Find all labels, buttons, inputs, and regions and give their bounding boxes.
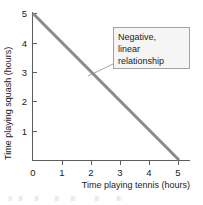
callout-line-1: Negative, <box>118 32 156 42</box>
y-tick-label-4: 4 <box>22 38 27 49</box>
scatter-line-chart: 5 4 3 2 1 0 1 2 3 4 5 Negative, linear r… <box>0 0 203 205</box>
y-tick-label-2: 2 <box>22 96 27 107</box>
chart-figure: 5 4 3 2 1 0 1 2 3 4 5 Negative, linear r… <box>0 0 203 205</box>
x-tick-label-4: 4 <box>146 167 151 178</box>
y-tick-label-3: 3 <box>22 67 27 78</box>
x-tick-label-3: 3 <box>117 167 122 178</box>
callout-line-3: relationship <box>118 56 164 66</box>
x-tick-label-5: 5 <box>175 167 180 178</box>
y-axis-title: Time playing squash (hours) <box>3 47 13 160</box>
callout-leader-line <box>88 64 113 76</box>
x-tick-label-2: 2 <box>88 167 93 178</box>
page-edge-artifact <box>8 196 148 201</box>
callout-line-2: linear <box>118 44 140 54</box>
y-tick-label-5: 5 <box>22 8 27 19</box>
y-tick-label-1: 1 <box>22 126 27 137</box>
x-tick-label-0: 0 <box>30 167 35 178</box>
x-tick-label-1: 1 <box>59 167 64 178</box>
x-axis-title: Time playing tennis (hours) <box>82 180 190 190</box>
